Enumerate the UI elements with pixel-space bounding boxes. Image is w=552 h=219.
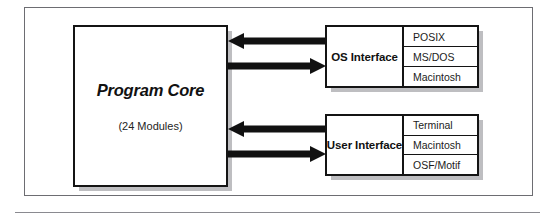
user-interface-option: Terminal xyxy=(404,116,477,136)
user-interface-option: OSF/Motif xyxy=(404,155,477,174)
user-interface-box: User Interface Terminal Macintosh OSF/Mo… xyxy=(325,114,479,176)
os-interface-label-cell: OS Interface xyxy=(327,27,404,86)
program-core-box: Program Core (24 Modules) xyxy=(73,25,228,187)
figure-root: Program Core (24 Modules) OS Interface P… xyxy=(0,0,552,219)
arrow-right-icon xyxy=(228,146,326,162)
os-interface-option: MS/DOS xyxy=(404,47,477,67)
user-connector-group xyxy=(228,121,326,166)
os-connector-group xyxy=(228,33,326,78)
os-interface-box: OS Interface POSIX MS/DOS Macintosh xyxy=(325,25,479,88)
os-interface-option: Macintosh xyxy=(404,67,477,86)
user-interface-label: User Interface xyxy=(327,139,402,151)
caption-divider xyxy=(15,212,540,213)
os-interface-option: POSIX xyxy=(404,27,477,47)
os-interface-label: OS Interface xyxy=(331,51,398,63)
user-interface-option: Macintosh xyxy=(404,136,477,156)
os-interface-option-list: POSIX MS/DOS Macintosh xyxy=(404,27,477,86)
user-interface-label-cell: User Interface xyxy=(327,116,404,174)
user-interface-option-list: Terminal Macintosh OSF/Motif xyxy=(404,116,477,174)
arrow-left-icon xyxy=(228,121,326,137)
arrow-left-icon xyxy=(228,33,326,49)
program-core-subtitle: (24 Modules) xyxy=(118,120,182,132)
arrow-right-icon xyxy=(228,58,326,74)
program-core-title: Program Core xyxy=(97,81,205,100)
